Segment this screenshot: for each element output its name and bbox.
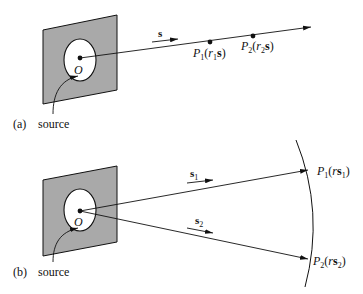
panel-b: O s1 s2 P1(rs1) P2(rs2) (b) source xyxy=(13,140,350,287)
panel-tag: (a) xyxy=(13,117,26,131)
origin-label: O xyxy=(74,63,83,77)
source-label: source xyxy=(38,117,69,131)
direction-label: s xyxy=(158,27,163,39)
direction-arrow xyxy=(152,39,178,42)
panel-a: O s P1(r1s) P2(r2s) (a) source xyxy=(13,15,311,131)
direction-label-2: s2 xyxy=(195,214,203,229)
panel-tag: (b) xyxy=(13,265,27,279)
source-label: source xyxy=(38,265,69,279)
point-p1-label: P1(rs1) xyxy=(316,164,350,180)
radiation-geometry-figure: O s P1(r1s) P2(r2s) (a) source O s1 xyxy=(0,0,363,294)
point-p2-dot xyxy=(251,34,256,39)
spherical-wavefront-arc xyxy=(296,140,313,287)
direction-arrow-1 xyxy=(187,180,213,183)
origin-dot xyxy=(78,209,83,214)
point-p1-dot xyxy=(208,40,213,45)
origin-label: O xyxy=(74,215,83,229)
point-p1-label: P1(r1s) xyxy=(192,46,226,62)
origin-dot xyxy=(78,56,83,61)
direction-label-1: s1 xyxy=(190,167,198,182)
point-p2-label: P2(r2s) xyxy=(240,39,274,55)
point-p2-label: P2(rs2) xyxy=(312,254,346,270)
